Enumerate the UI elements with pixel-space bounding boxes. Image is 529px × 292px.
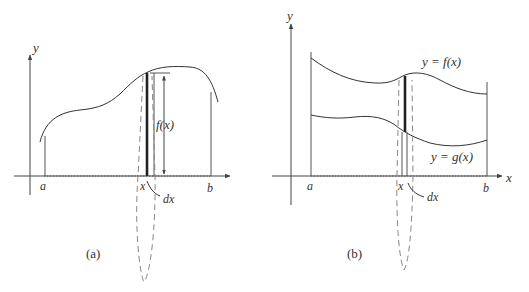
- y-axis-label-a: y: [31, 40, 39, 55]
- caption-a: (a): [86, 246, 100, 261]
- dx-leader-a: [147, 181, 160, 196]
- x-label-a-a: a: [40, 179, 46, 193]
- x-label-x-b: x: [397, 179, 404, 193]
- dx-label-a: dx: [163, 192, 175, 206]
- x-label-b-a: b: [207, 181, 213, 195]
- lower-curve-label-b: y = g(x): [429, 149, 473, 164]
- dx-leader-b: [408, 183, 424, 197]
- x-axis-label-b: x: [505, 170, 512, 185]
- y-axis-label-b: y: [285, 8, 293, 23]
- caption-b: (b): [347, 246, 362, 261]
- curve-g-b: [311, 115, 487, 146]
- x-label-x-a: x: [139, 179, 146, 193]
- diagram-canvas: y f(x) a x b dx (a) y x: [0, 0, 529, 292]
- x-label-a-b: a: [307, 179, 313, 193]
- height-label-a: f(x): [156, 117, 174, 132]
- panel-b: y x y = f(x) y = g(x) a x b dx (b): [272, 8, 512, 270]
- curve-f-a: [40, 67, 218, 142]
- upper-curve-label-b: y = f(x): [420, 54, 461, 69]
- x-label-b-b: b: [483, 181, 489, 195]
- panel-a: y f(x) a x b dx (a): [14, 40, 230, 282]
- dx-label-b: dx: [427, 190, 439, 204]
